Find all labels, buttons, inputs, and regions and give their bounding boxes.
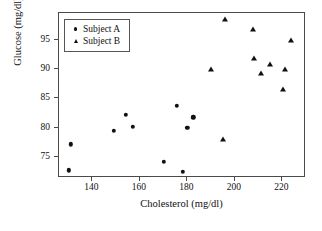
data-point	[174, 103, 178, 107]
legend-label: Subject B	[83, 36, 120, 47]
data-point	[66, 168, 70, 172]
x-tick-label: 160	[132, 182, 146, 192]
data-point	[208, 66, 214, 71]
data-point	[267, 61, 273, 66]
y-tick	[54, 68, 58, 69]
data-point	[282, 66, 288, 71]
y-tick	[54, 156, 58, 157]
data-point	[69, 142, 73, 146]
circle-marker-icon	[71, 27, 80, 31]
data-point	[161, 160, 165, 164]
y-axis-label: Glucose (mg/dl)	[12, 0, 23, 107]
data-point	[191, 115, 195, 119]
plot-area: Subject ASubject B	[58, 12, 305, 177]
x-tick	[139, 177, 140, 181]
data-point	[258, 71, 264, 76]
x-tick	[186, 177, 187, 181]
y-tick-label: 85	[41, 92, 51, 102]
y-tick-label: 75	[41, 151, 51, 161]
data-point	[222, 17, 228, 22]
y-tick	[54, 127, 58, 128]
data-point	[280, 87, 286, 92]
scatter-chart: Subject ASubject B 140160180200220 75808…	[0, 0, 322, 231]
data-point	[220, 136, 226, 141]
data-point	[130, 125, 134, 129]
x-tick	[281, 177, 282, 181]
y-tick-label: 95	[41, 34, 51, 44]
legend-item: Subject A	[71, 23, 120, 35]
data-point	[123, 113, 127, 117]
triangle-marker-icon	[71, 39, 80, 43]
data-point	[288, 37, 294, 42]
y-tick	[54, 97, 58, 98]
legend-label: Subject A	[83, 24, 120, 35]
data-point	[111, 129, 115, 133]
data-point	[185, 126, 189, 130]
data-point	[180, 170, 184, 174]
x-tick	[234, 177, 235, 181]
x-tick-label: 140	[84, 182, 98, 192]
x-tick-label: 220	[274, 182, 288, 192]
chart-legend: Subject ASubject B	[64, 19, 130, 52]
x-axis-label: Cholesterol (mg/dl)	[58, 198, 305, 209]
y-tick	[54, 39, 58, 40]
x-tick-label: 180	[179, 182, 193, 192]
data-point	[251, 55, 257, 60]
y-tick-label: 80	[41, 122, 51, 132]
x-tick-label: 200	[227, 182, 241, 192]
data-point	[250, 26, 256, 31]
legend-item: Subject B	[71, 35, 120, 47]
y-tick-label: 90	[41, 63, 51, 73]
x-tick	[91, 177, 92, 181]
